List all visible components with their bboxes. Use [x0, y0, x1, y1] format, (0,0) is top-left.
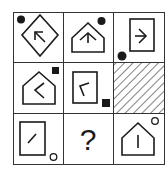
filled-circle-icon — [98, 17, 106, 25]
filled-circle-icon — [17, 16, 25, 24]
cell-r1-c0[interactable] — [23, 67, 59, 104]
filled-circle-icon — [118, 52, 127, 61]
diamond-shape — [22, 15, 58, 56]
cell-r1-c1[interactable] — [73, 72, 110, 107]
arrow-up-left-icon — [35, 32, 45, 42]
cell-r2-c2[interactable] — [122, 118, 158, 155]
arrowhead-right-icon — [135, 29, 146, 43]
diagonal-line-icon — [28, 134, 36, 143]
house-shape — [23, 72, 55, 104]
cell-r1-c2-hatched — [114, 63, 164, 113]
angle-stroke-icon — [80, 83, 89, 96]
hollow-circle-icon — [152, 118, 159, 125]
rectangle-shape — [130, 19, 154, 51]
figure-reasoning-puzzle: ? — [0, 0, 168, 174]
cell-r0-c2[interactable] — [118, 19, 155, 61]
filled-square-icon — [52, 67, 59, 74]
filled-square-icon — [102, 99, 110, 107]
rectangle-shape — [73, 72, 97, 103]
chevron-left-icon — [35, 83, 44, 98]
cell-r2-c1-question[interactable]: ? — [80, 123, 97, 156]
cell-r0-c1[interactable] — [72, 17, 106, 52]
cell-r2-c0[interactable] — [20, 122, 57, 160]
hollow-circle-icon — [50, 154, 57, 161]
cell-r0-c0[interactable] — [17, 15, 58, 56]
question-mark: ? — [80, 123, 97, 156]
arrow-up-icon — [80, 33, 96, 43]
